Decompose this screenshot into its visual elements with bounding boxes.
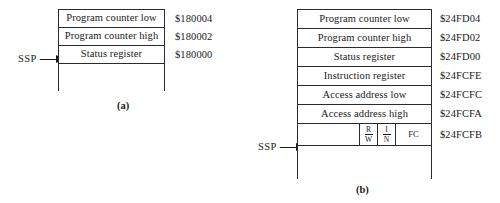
address-label: $24FCFB xyxy=(440,130,482,141)
address-label: $24FCFC xyxy=(440,90,482,101)
figure-caption-a: (a) xyxy=(117,101,129,112)
flag-fc-label: FC xyxy=(408,130,418,139)
address-label: $180000 xyxy=(175,50,212,61)
ssp-label-b: SSP xyxy=(258,142,277,153)
stack-frame-diagram-b: SSP Program counter low Program counter … xyxy=(250,0,500,203)
stack-row-label: Access address high xyxy=(321,109,408,120)
stack-row-b-2: Status register xyxy=(298,48,431,67)
stack-row-label: Program counter high xyxy=(318,33,412,44)
address-label: $24FCFA xyxy=(440,109,482,120)
stack-row-b-3: Instruction register xyxy=(298,67,431,86)
stack-row-a-3-empty xyxy=(59,64,164,92)
stack-row-label: Program counter high xyxy=(65,31,159,42)
flag-in-bottom: N xyxy=(384,135,389,143)
address-label: $24FD04 xyxy=(440,14,480,25)
stack-row-label: Status register xyxy=(334,52,395,63)
figure-caption-b: (b) xyxy=(356,185,369,196)
flag-rw-top: R xyxy=(366,126,371,134)
status-flag-cells: R W I N FC xyxy=(359,124,431,145)
flag-cell-function-code: FC xyxy=(395,124,431,145)
stack-row-b-6-status: R W I N FC xyxy=(298,124,431,146)
stack-row-a-1: Program counter high xyxy=(59,28,164,46)
flag-rw-bottom: W xyxy=(365,135,372,143)
address-label: $24FCFE xyxy=(440,71,482,82)
stack-row-label: Program counter low xyxy=(319,14,410,25)
ssp-label-a: SSP xyxy=(18,54,37,65)
address-label: $24FD00 xyxy=(440,52,480,63)
stack-row-a-0: Program counter low xyxy=(59,10,164,28)
stack-box-a: Program counter low Program counter high… xyxy=(58,9,165,91)
stack-row-b-0: Program counter low xyxy=(298,10,431,29)
stack-row-b-1: Program counter high xyxy=(298,29,431,48)
address-label: $180004 xyxy=(175,14,212,25)
stack-row-label: Status register xyxy=(81,49,142,60)
stack-row-label: Access address low xyxy=(322,90,406,101)
address-label: $24FD02 xyxy=(440,33,480,44)
stack-row-b-5: Access address high xyxy=(298,105,431,124)
flag-cell-read-write: R W xyxy=(359,124,377,145)
address-label: $180002 xyxy=(175,32,212,43)
stack-box-b: Program counter low Program counter high… xyxy=(297,9,432,179)
stack-row-label: Program counter low xyxy=(66,13,157,24)
stack-frame-diagram-a: SSP Program counter low Program counter … xyxy=(0,0,250,120)
stack-row-b-7-empty xyxy=(298,146,431,179)
stack-row-b-4: Access address low xyxy=(298,86,431,105)
flag-in-top: I xyxy=(385,126,388,134)
stack-row-label: Instruction register xyxy=(324,71,406,82)
flag-cell-instruction-not: I N xyxy=(377,124,395,145)
stack-row-a-2: Status register xyxy=(59,46,164,64)
